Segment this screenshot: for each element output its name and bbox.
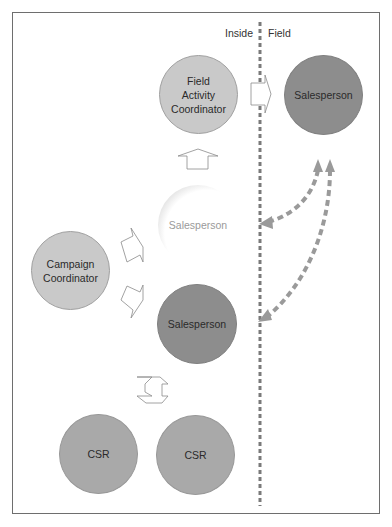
node-csr-left: CSR <box>59 414 138 494</box>
arrow-diagonal-down-icon <box>121 285 143 318</box>
node-field-salesperson: Salesperson <box>284 55 363 135</box>
dashed-arrow-to-ghost-salesperson <box>268 170 318 222</box>
arrowhead-up-icon <box>325 159 335 172</box>
node-csr-right: CSR <box>156 415 235 495</box>
dashed-arrow-to-inside-salesperson <box>268 170 330 316</box>
node-field-activity-coordinator: Field Activity Coordinator <box>159 55 238 134</box>
arrow-double-icon <box>137 377 168 403</box>
field-label: Field <box>268 27 291 39</box>
node-ghost-salesperson: Salesperson <box>158 185 238 265</box>
inside-label: Inside <box>225 27 253 39</box>
node-inside-salesperson: Salesperson <box>157 284 237 364</box>
arrow-diagonal-up-icon <box>121 228 143 262</box>
node-campaign-coordinator: Campaign Coordinator <box>31 231 110 310</box>
arrow-up-icon <box>178 149 218 169</box>
arrowhead-up-icon <box>313 159 323 172</box>
